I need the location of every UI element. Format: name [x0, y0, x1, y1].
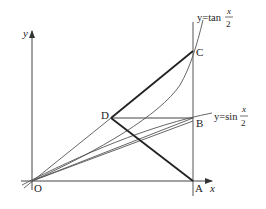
svg-text:x: x — [226, 6, 231, 16]
diagram: y x O A B C D y=tan x 2 y=sin x 2 — [0, 0, 266, 209]
svg-text:2: 2 — [241, 118, 246, 128]
point-b-label: B — [196, 117, 203, 129]
segment-da — [111, 118, 193, 181]
point-a-label: A — [195, 182, 203, 194]
point-d-label: D — [101, 109, 109, 121]
svg-text:x: x — [241, 104, 246, 114]
sin-curve-label: y=sin x 2 — [214, 104, 248, 128]
y-axis-label: y — [22, 27, 28, 39]
point-o-label: O — [34, 182, 42, 194]
tan-curve — [32, 20, 203, 181]
svg-text:y=tan: y=tan — [197, 12, 222, 23]
chord-ob-2 — [32, 121, 193, 181]
tan-curve-label: y=tan x 2 — [197, 6, 233, 29]
x-axis-label: x — [209, 182, 215, 194]
svg-text:y=sin: y=sin — [214, 111, 238, 122]
line-od — [24, 118, 111, 188]
point-c-label: C — [196, 46, 203, 58]
svg-text:2: 2 — [226, 19, 231, 29]
